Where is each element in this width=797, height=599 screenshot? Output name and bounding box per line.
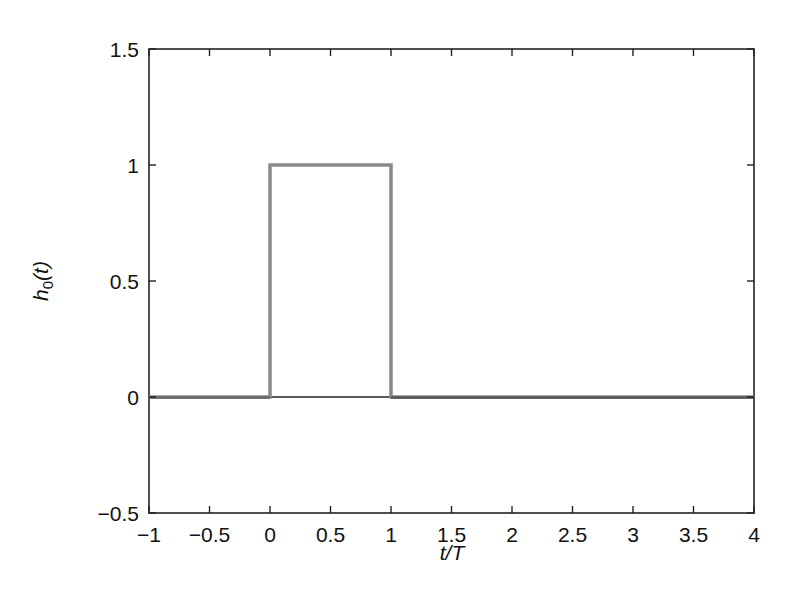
plot-area — [149, 49, 754, 513]
pulse-line — [149, 165, 754, 397]
x-tick-label: 0 — [264, 523, 276, 546]
plot-frame — [149, 49, 754, 513]
x-tick-label: −0.5 — [189, 523, 230, 546]
y-axis-label: h0(t) — [29, 261, 56, 301]
x-tick-label: 1 — [385, 523, 397, 546]
x-tick-label: 3.5 — [679, 523, 708, 546]
y-tick-label: 1.5 — [110, 38, 139, 61]
x-tick-label: 4 — [748, 523, 760, 546]
x-axis-ticks: −1−0.500.511.522.533.54 — [137, 49, 760, 546]
chart: −1−0.500.511.522.533.54 −0.500.511.5 t/T… — [0, 0, 797, 599]
x-axis-label: t/T — [440, 541, 467, 564]
x-tick-label: 2.5 — [558, 523, 587, 546]
y-tick-label: 0 — [127, 386, 139, 409]
x-tick-label: 0.5 — [316, 523, 345, 546]
x-tick-label: 2 — [506, 523, 518, 546]
x-tick-label: 3 — [627, 523, 639, 546]
y-tick-label: −0.5 — [98, 502, 139, 525]
y-tick-label: 1 — [127, 154, 139, 177]
svg-text:h0(t): h0(t) — [29, 261, 56, 301]
y-tick-label: 0.5 — [110, 270, 139, 293]
x-tick-label: −1 — [137, 523, 161, 546]
y-axis-ticks: −0.500.511.5 — [98, 38, 754, 525]
